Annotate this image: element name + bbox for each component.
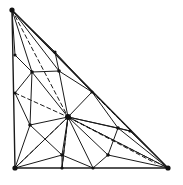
vertex-interior-lower-right [106,153,110,157]
edge-l2-to-v1 [15,72,32,93]
dashed-apex-to-hub [12,10,68,117]
edge-v2-to-hub [59,71,68,117]
vertex-hyp-upper [53,50,56,53]
edge-v5-to-corner-c [118,128,168,168]
vertex-hyp-mid [90,90,93,93]
vertex-interior-left-low [28,123,32,127]
vertex-central-hub [65,114,71,120]
edge-hub-to-b2 [68,117,93,168]
edge-v3-to-corner-b [15,125,30,168]
edge-v4-to-b2 [62,155,93,168]
vertex-interior-lower-mid [60,153,64,157]
figure-root [0,0,183,185]
edge-v3-to-v4 [30,125,62,155]
edge-v1-to-v2 [32,71,59,72]
vertex-interior-right-low [116,126,120,130]
edge-h2-to-v5 [92,92,118,128]
vertex-bottom-left [12,165,17,170]
edge-v1-to-v3 [30,72,32,125]
vertex-bottom-mid [60,166,63,169]
edge-hub-to-v3 [30,117,68,125]
vertex-interior-upper-left [30,70,34,74]
edge-l2-to-v3 [15,93,30,125]
edge-v1-to-hub [32,72,68,117]
vertex-bottom-right [165,165,170,170]
edge-v6-to-corner-c [108,155,168,168]
edge-hub-to-v5 [68,117,118,128]
vertex-hyp-lower [128,129,131,132]
triangulation-diagram [0,0,183,185]
edge-h2-to-hub [68,92,92,117]
edge-v6-to-b2 [93,155,108,168]
dashed-l2-to-hub [15,93,68,117]
vertex-interior-upper-right [57,69,61,73]
vertex-apex [9,7,14,12]
edge-hub-to-v6 [68,117,108,155]
edge-apex-to-v2 [12,10,59,71]
vertex-left-lower [13,91,16,94]
vertex-bottom-right-mid [91,166,94,169]
vertex-left-upper [13,53,16,56]
